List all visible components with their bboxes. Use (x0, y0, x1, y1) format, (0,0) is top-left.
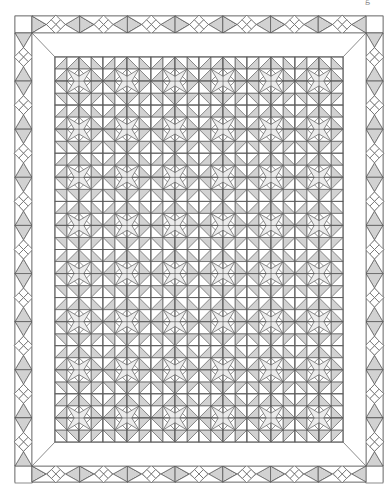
corner-square (15, 16, 32, 33)
quilt-block (55, 201, 103, 249)
quilt-block (103, 298, 151, 346)
quilt-block (295, 346, 343, 394)
quilt-block (199, 57, 247, 105)
quilt-block (151, 298, 199, 346)
quilt-block (199, 346, 247, 394)
quilt-block (55, 346, 103, 394)
quilt-block (247, 298, 295, 346)
quilt-block (55, 57, 103, 105)
quilt-block (103, 250, 151, 298)
quilt-block (247, 394, 295, 442)
quilt-block (103, 346, 151, 394)
border-strip-horizontal (32, 15, 366, 34)
quilt-block (55, 298, 103, 346)
corner-square (366, 16, 383, 33)
quilt-block (247, 201, 295, 249)
quilt-block (199, 298, 247, 346)
quilt-block (103, 394, 151, 442)
corner-square (15, 466, 32, 483)
quilt-block (151, 201, 199, 249)
quilt-block (247, 153, 295, 201)
border-strip-vertical (14, 33, 33, 466)
quilt-block (55, 105, 103, 153)
quilt-block (151, 250, 199, 298)
quilt-block (199, 250, 247, 298)
border-strip-horizontal (32, 465, 366, 483)
quilt-block (295, 298, 343, 346)
border-strip-vertical (365, 33, 384, 466)
quilt-block (151, 105, 199, 153)
quilt-block (295, 201, 343, 249)
quilt-block (295, 57, 343, 105)
quilt-diagram (0, 0, 390, 498)
quilt-block (295, 394, 343, 442)
quilt-block (199, 201, 247, 249)
quilt-block (199, 105, 247, 153)
quilt-block (103, 57, 151, 105)
quilt-block (295, 250, 343, 298)
quilt-block (55, 250, 103, 298)
quilt-block (103, 153, 151, 201)
quilt-block (103, 201, 151, 249)
quilt-block (247, 57, 295, 105)
quilt-block (295, 105, 343, 153)
quilt-block (151, 57, 199, 105)
quilt-block (295, 153, 343, 201)
quilt-block (247, 105, 295, 153)
quilt-block (151, 394, 199, 442)
quilt-block (247, 346, 295, 394)
quilt-block (247, 250, 295, 298)
quilt-block (199, 394, 247, 442)
quilt-block (199, 153, 247, 201)
quilt-block (151, 346, 199, 394)
corner-square (366, 466, 383, 483)
quilt-block (151, 153, 199, 201)
quilt-block (55, 394, 103, 442)
quilt-block (103, 105, 151, 153)
center-field (55, 57, 343, 442)
quilt-block (55, 153, 103, 201)
